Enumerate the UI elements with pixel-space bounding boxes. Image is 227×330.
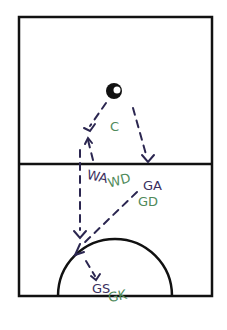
arrowhead-icon xyxy=(74,231,86,238)
court-outline xyxy=(19,17,212,296)
label-ga: GA xyxy=(143,178,162,193)
pass-ball-to-ga xyxy=(133,108,147,158)
pass-to-gs xyxy=(86,261,95,276)
netball-diagram: C WA WD GA GD GS GK xyxy=(0,0,227,330)
pass-ga-to-circle xyxy=(83,192,137,244)
label-gd: GD xyxy=(138,194,158,209)
pass-ball-to-wa xyxy=(90,103,106,126)
arrowhead-icon xyxy=(142,155,154,162)
label-wd: WD xyxy=(106,170,132,190)
ball-icon xyxy=(106,83,122,99)
label-gk: GK xyxy=(107,287,129,306)
label-c: C xyxy=(110,119,119,134)
goal-circle xyxy=(58,239,172,296)
